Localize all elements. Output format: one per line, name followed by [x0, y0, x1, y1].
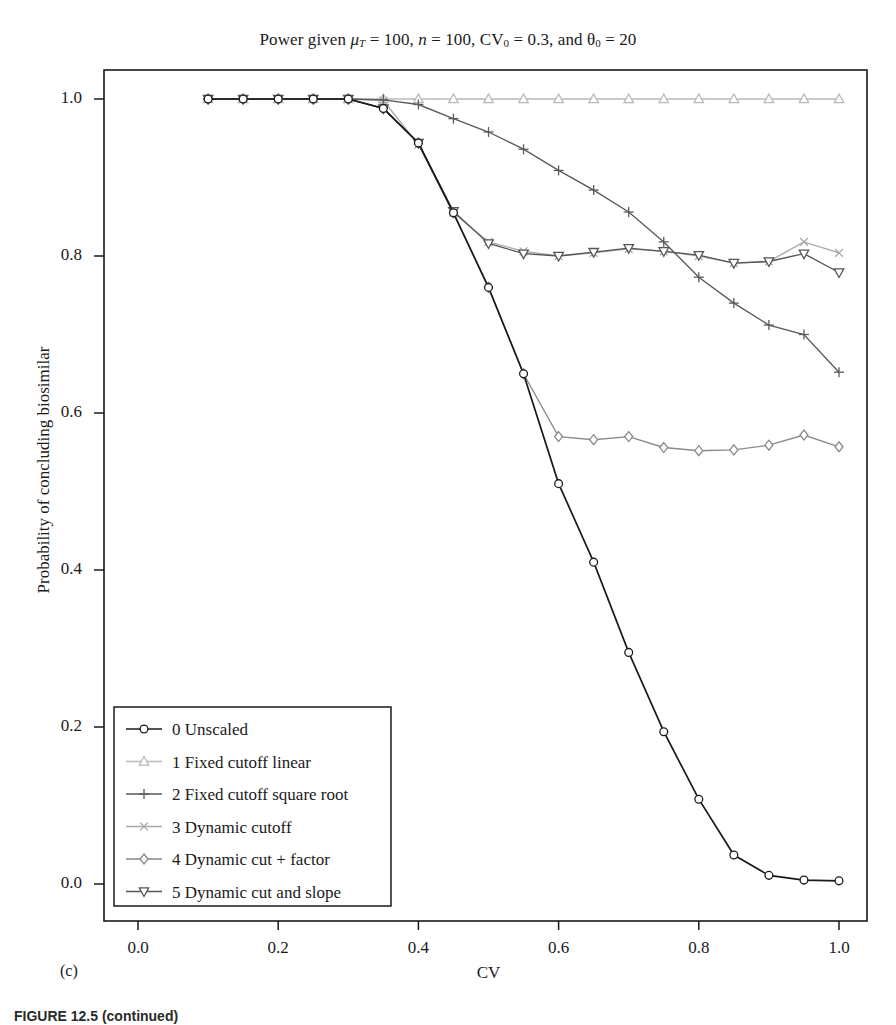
x-tick-label: 0.0 — [103, 938, 173, 958]
svg-text:2 Fixed cutoff square root: 2 Fixed cutoff square root — [172, 785, 349, 804]
y-tick-label: 1.0 — [22, 88, 82, 108]
x-tick-label: 0.4 — [383, 938, 453, 958]
svg-text:5 Dynamic cut and slope: 5 Dynamic cut and slope — [172, 883, 341, 902]
svg-text:1 Fixed cutoff linear: 1 Fixed cutoff linear — [172, 753, 311, 772]
x-tick-label: 1.0 — [804, 938, 874, 958]
legend-box: 0 Unscaled1 Fixed cutoff linear2 Fixed c… — [114, 707, 391, 906]
y-tick-label: 0.0 — [22, 873, 82, 893]
svg-text:0 Unscaled: 0 Unscaled — [172, 720, 249, 739]
plot-area: 0 Unscaled1 Fixed cutoff linear2 Fixed c… — [0, 0, 896, 1025]
x-tick-label: 0.2 — [243, 938, 313, 958]
y-tick-label: 0.2 — [22, 716, 82, 736]
x-tick-label: 0.6 — [524, 938, 594, 958]
series-5 — [203, 95, 843, 277]
x-tick-label: 0.8 — [664, 938, 734, 958]
figure-panel: Power given μT = 100, n = 100, CV0 = 0.3… — [0, 0, 896, 1025]
y-tick-label: 0.8 — [22, 245, 82, 265]
y-tick-label: 0.6 — [22, 402, 82, 422]
y-tick-label: 0.4 — [22, 559, 82, 579]
series-3 — [204, 95, 843, 267]
svg-text:4 Dynamic cut + factor: 4 Dynamic cut + factor — [172, 850, 330, 869]
svg-text:3 Dynamic cutoff: 3 Dynamic cutoff — [172, 818, 292, 837]
series-2 — [203, 94, 844, 377]
